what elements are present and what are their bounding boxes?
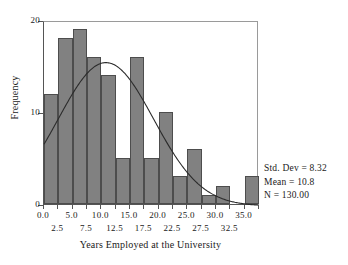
x-tick-mark [201, 205, 202, 209]
x-tick-mark [86, 205, 87, 209]
x-tick-mark [57, 205, 58, 209]
x-tick-mark [172, 205, 173, 209]
normal-distribution-curve [44, 22, 259, 206]
x-tick-mark [258, 205, 259, 209]
mean-text: Mean = 10.8 [264, 176, 348, 190]
n-text: N = 130.00 [264, 189, 348, 203]
x-tick-mark [100, 205, 101, 209]
statistics-annotation: Std. Dev = 8.32 Mean = 10.8 N = 130.00 [264, 162, 348, 203]
x-tick-mark [244, 205, 245, 209]
histogram-figure: Frequency 01020 0.05.010.015.020.025.030… [0, 0, 348, 265]
x-tick-mark [215, 205, 216, 209]
x-tick-mark [186, 205, 187, 209]
plot-area [43, 21, 258, 205]
std-dev-text: Std. Dev = 8.32 [264, 162, 348, 176]
y-axis: 01020 [0, 0, 40, 265]
y-tick-label: 0 [6, 199, 40, 209]
x-tick-label-major: 35.0 [224, 210, 264, 220]
y-tick-label: 20 [6, 15, 40, 25]
x-tick-mark [129, 205, 130, 209]
x-axis-title: Years Employed at the University [43, 239, 258, 250]
x-tick-mark [158, 205, 159, 209]
x-tick-label-minor: 32.5 [209, 223, 249, 233]
y-tick-label: 10 [6, 107, 40, 117]
x-tick-mark [115, 205, 116, 209]
x-tick-mark [72, 205, 73, 209]
x-tick-mark [43, 205, 44, 209]
x-tick-mark [229, 205, 230, 209]
x-tick-mark [143, 205, 144, 209]
